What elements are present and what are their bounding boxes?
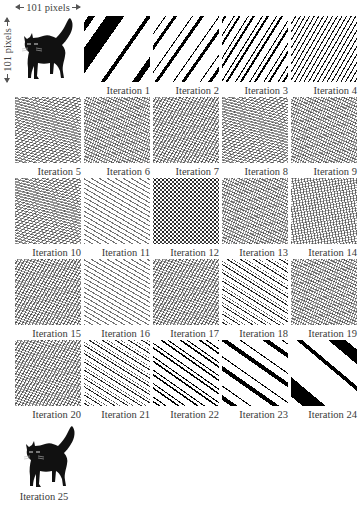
iteration-image bbox=[291, 259, 357, 325]
iteration-label: Iteration 18 bbox=[222, 328, 288, 339]
iteration-image bbox=[153, 178, 219, 244]
iteration-image bbox=[15, 340, 81, 406]
arrow-up-icon bbox=[7, 18, 8, 26]
iteration-image bbox=[222, 16, 288, 82]
iteration-image bbox=[222, 259, 288, 325]
iteration-image bbox=[84, 97, 150, 163]
iteration-image bbox=[84, 259, 150, 325]
iteration-label: Iteration 4 bbox=[291, 85, 357, 96]
iteration-image bbox=[153, 259, 219, 325]
iteration-label: Iteration 20 bbox=[15, 409, 81, 420]
iteration-label: Iteration 15 bbox=[15, 328, 81, 339]
iteration-image bbox=[15, 259, 81, 325]
iteration-label-final: Iteration 25 bbox=[14, 491, 74, 502]
iteration-label: Iteration 8 bbox=[222, 166, 288, 177]
iteration-image bbox=[291, 97, 357, 163]
iteration-label: Iteration 13 bbox=[222, 247, 288, 258]
iteration-image bbox=[84, 178, 150, 244]
iteration-label: Iteration 2 bbox=[153, 85, 219, 96]
iteration-label: Iteration 11 bbox=[84, 247, 150, 258]
iteration-image bbox=[84, 16, 150, 82]
iteration-image bbox=[222, 97, 288, 163]
iteration-label: Iteration 24 bbox=[291, 409, 357, 420]
iteration-label: Iteration 22 bbox=[153, 409, 219, 420]
arrow-down-icon bbox=[7, 74, 8, 82]
iteration-label: Iteration 14 bbox=[291, 247, 357, 258]
width-label: 101 pixels bbox=[26, 2, 69, 13]
iteration-label: Iteration 16 bbox=[84, 328, 150, 339]
iteration-image bbox=[291, 16, 357, 82]
iteration-label: Iteration 9 bbox=[291, 166, 357, 177]
iteration-image bbox=[153, 340, 219, 406]
arrow-right-icon bbox=[72, 7, 80, 8]
iteration-label: Iteration 1 bbox=[84, 85, 150, 96]
height-dimension: 101 pixels bbox=[1, 16, 13, 84]
height-label: 101 pixels bbox=[2, 28, 13, 71]
iteration-label: Iteration 10 bbox=[15, 247, 81, 258]
iteration-image bbox=[222, 340, 288, 406]
iteration-label: Iteration 17 bbox=[153, 328, 219, 339]
arrow-left-icon bbox=[16, 7, 24, 8]
iteration-label: Iteration 12 bbox=[153, 247, 219, 258]
iteration-image bbox=[291, 340, 357, 406]
iteration-image bbox=[153, 16, 219, 82]
iteration-image bbox=[84, 340, 150, 406]
width-dimension: 101 pixels bbox=[14, 1, 82, 13]
iteration-image bbox=[153, 97, 219, 163]
iteration-label: Iteration 5 bbox=[15, 166, 81, 177]
iteration-image bbox=[291, 178, 357, 244]
iteration-image bbox=[15, 178, 81, 244]
iteration-label: Iteration 19 bbox=[291, 328, 357, 339]
cat-icon bbox=[18, 16, 76, 82]
iteration-label: Iteration 23 bbox=[222, 409, 288, 420]
iteration-label: Iteration 21 bbox=[84, 409, 150, 420]
cat-icon-final bbox=[20, 424, 78, 490]
iteration-label: Iteration 3 bbox=[222, 85, 288, 96]
iteration-image bbox=[15, 97, 81, 163]
iteration-label: Iteration 6 bbox=[84, 166, 150, 177]
iteration-image bbox=[222, 178, 288, 244]
iteration-label: Iteration 7 bbox=[153, 166, 219, 177]
